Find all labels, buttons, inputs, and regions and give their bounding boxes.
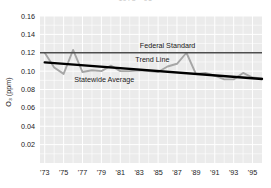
- y-tick-label-6: 0.14: [21, 30, 35, 39]
- chart-canvas: 0.020.040.060.080.100.120.140.16 '73'75'…: [0, 0, 271, 188]
- y-tick-label-5: 0.12: [21, 48, 35, 57]
- x-tick-label-3: '79: [97, 168, 106, 177]
- y-tick-label-0: 0.02: [21, 140, 35, 149]
- x-tick-label-7: '87: [172, 168, 181, 177]
- x-tick-label-9: '91: [210, 168, 219, 177]
- x-tick-label-11: '95: [248, 168, 257, 177]
- x-axis-tick-labels: '73'75'77'79'81'83'85'87'89'91'93'95: [40, 168, 257, 177]
- x-tick-label-2: '77: [78, 168, 87, 177]
- x-tick-label-1: '75: [59, 168, 68, 177]
- x-tick-label-10: '93: [229, 168, 238, 177]
- annotation-statewide-average: Statewide Average: [74, 75, 134, 84]
- y-axis-title-group: O₃ (ppm): [4, 77, 13, 106]
- x-tick-label-5: '83: [135, 168, 144, 177]
- annotation-trend-line: Trend Line: [135, 55, 169, 64]
- x-tick-label-8: '89: [191, 168, 200, 177]
- y-tick-label-1: 0.04: [21, 122, 35, 131]
- y-tick-label-3: 0.08: [21, 85, 35, 94]
- y-axis-title: O₃ (ppm): [4, 77, 13, 106]
- annotation-federal-standard: Federal Standard: [140, 41, 196, 50]
- x-tick-label-6: '85: [153, 168, 162, 177]
- y-tick-label-7: 0.16: [21, 12, 35, 21]
- ozone-trend-chart-figure: 1973 - 95 0.020.040.060.080.100.120.140.…: [0, 0, 271, 188]
- y-tick-label-2: 0.06: [21, 103, 35, 112]
- cropped-figure-title: 1973 - 95: [0, 0, 271, 1]
- y-axis-tick-labels: 0.020.040.060.080.100.120.140.16: [21, 12, 35, 150]
- y-tick-label-4: 0.10: [21, 67, 35, 76]
- x-tick-label-0: '73: [40, 168, 49, 177]
- x-tick-label-4: '81: [116, 168, 125, 177]
